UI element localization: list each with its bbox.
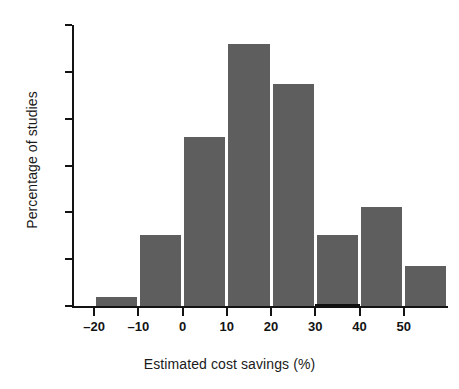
y-tick [65, 211, 72, 213]
x-tick [314, 308, 316, 316]
x-tick [93, 308, 95, 316]
x-tick-label: 10 [205, 319, 249, 334]
x-tick-label: –20 [72, 319, 116, 334]
x-tick [270, 308, 272, 316]
y-tick [65, 305, 72, 307]
histogram-chart: Percentage of studies Estimated cost sav… [0, 0, 459, 389]
histogram-bar [361, 207, 402, 306]
x-tick [359, 308, 361, 316]
x-tick-label: –10 [116, 319, 160, 334]
x-tick-label: 50 [382, 319, 426, 334]
x-tick-label: 40 [338, 319, 382, 334]
y-axis-line [72, 25, 74, 306]
histogram-bar [96, 297, 137, 306]
histogram-bar [184, 137, 225, 306]
x-tick [137, 308, 139, 316]
x-tick [182, 308, 184, 316]
plot-area: 051015202530 –20–1001020304050 [72, 25, 448, 306]
x-tick [226, 308, 228, 316]
histogram-bar [228, 44, 269, 306]
y-tick [65, 258, 72, 260]
x-tick-label: 20 [249, 319, 293, 334]
axis-accent-segment [315, 304, 359, 308]
y-axis-title: Percentage of studies [24, 50, 40, 270]
y-tick [65, 24, 72, 26]
y-tick [65, 118, 72, 120]
x-tick-label: 30 [293, 319, 337, 334]
x-tick [403, 308, 405, 316]
histogram-bar [317, 235, 358, 306]
y-tick [65, 165, 72, 167]
histogram-bar [405, 266, 446, 306]
histogram-bar [273, 84, 314, 306]
x-axis-title: Estimated cost savings (%) [0, 356, 459, 372]
y-tick [65, 71, 72, 73]
x-axis-line [72, 306, 448, 308]
histogram-bar [140, 235, 181, 306]
x-tick-label: 0 [161, 319, 205, 334]
